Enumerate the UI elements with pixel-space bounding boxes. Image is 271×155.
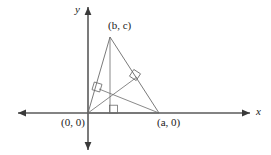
x-axis-arrow-left-icon: [18, 110, 26, 117]
side-apex-to-vertex-a: [110, 37, 159, 113]
right-angle-marker-bottom: [110, 105, 118, 113]
side-origin-to-apex: [88, 37, 110, 113]
figure-canvas: [0, 0, 271, 155]
vertex-label-origin: (0, 0): [61, 117, 85, 128]
vertex-label-apex: (b, c): [108, 20, 131, 31]
geometry-figure: (b, c) (0, 0) (a, 0) y x: [0, 0, 271, 155]
y-axis-arrow-down-icon: [85, 142, 92, 150]
x-axis-arrow-right-icon: [242, 110, 250, 117]
y-axis-label: y: [75, 4, 80, 15]
right-angle-markers: [92, 69, 141, 113]
x-axis-label: x: [256, 106, 261, 117]
y-axis: [85, 7, 92, 150]
y-axis-arrow-up-icon: [85, 7, 92, 15]
altitude-from-vertex-a: [99, 89, 159, 113]
vertex-label-a: (a, 0): [157, 117, 180, 128]
triangle-sides: [88, 37, 159, 113]
